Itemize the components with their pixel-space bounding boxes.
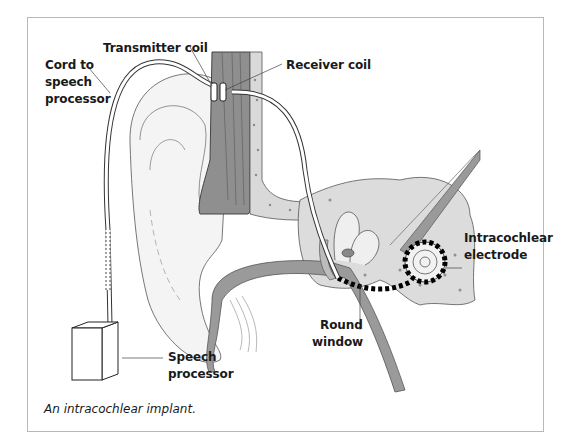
receiver-coil-shape xyxy=(220,83,226,101)
label-receiver-coil: Receiver coil xyxy=(286,57,371,74)
label-electrode-line1: Intracochlear xyxy=(464,230,553,247)
label-processor-line1: Speech xyxy=(168,349,217,366)
label-transmitter-coil: Transmitter coil xyxy=(103,40,208,57)
label-cord-line1: Cord to xyxy=(45,57,94,74)
label-processor-line2: processor xyxy=(168,366,234,383)
label-round-window-line1: Round xyxy=(320,317,363,334)
label-electrode-line2: electrode xyxy=(464,247,527,264)
figure-caption: An intracochlear implant. xyxy=(44,402,196,416)
label-round-window-line2: window xyxy=(312,334,363,351)
label-cord-line3: processor xyxy=(45,91,111,108)
speech-processor-box xyxy=(72,322,118,380)
label-cord-line2: speech xyxy=(45,74,92,91)
